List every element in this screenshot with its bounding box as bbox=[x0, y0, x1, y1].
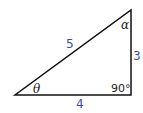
right-angle-label: 90° bbox=[111, 82, 131, 95]
theta-angle-label: θ bbox=[33, 82, 41, 96]
vertical-side-label: 3 bbox=[133, 49, 141, 63]
alpha-angle-label: α bbox=[121, 18, 129, 32]
base-label: 4 bbox=[76, 97, 84, 111]
triangle-diagram: 5 3 4 θ α 90° bbox=[0, 0, 143, 113]
hypotenuse-label: 5 bbox=[66, 37, 74, 51]
